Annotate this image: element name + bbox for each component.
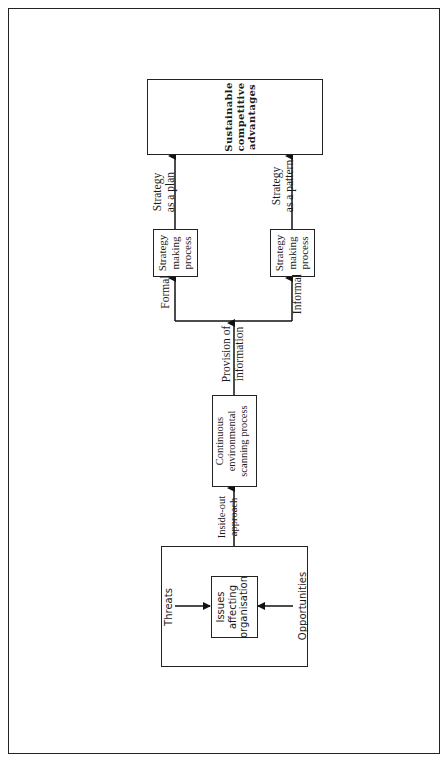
edge-label-strategy-as-a-plan: Strategy as a plan: [151, 157, 179, 227]
label-line: approach: [228, 486, 240, 548]
label-line: competitive: [235, 60, 247, 174]
edge-label-provision-of-information: Provision of information: [220, 313, 248, 395]
edge-label-threats: Threats: [163, 587, 177, 627]
node-issues-affecting-organisation: Issues affecting organisation: [211, 576, 258, 638]
edge-label-formal: Formal: [159, 270, 173, 314]
label-line: Sustainable: [223, 60, 235, 174]
label-line: as a pattern: [283, 145, 296, 227]
label-line: as a plan: [164, 157, 177, 227]
label-line: Strategy: [151, 157, 164, 227]
label-line: process: [181, 228, 194, 278]
node-sustainable-competitive-advantages: Sustainable competitive advantages: [147, 79, 323, 155]
edge-label-opportunities: Opportunities: [297, 566, 311, 646]
label-line: Issues: [215, 575, 227, 639]
label-line: organisation: [238, 575, 250, 639]
label-line: environmental: [226, 395, 238, 487]
label-line: Provision of: [220, 313, 233, 395]
label-line: information: [233, 313, 246, 395]
label-line: Strategy: [270, 145, 283, 227]
label-line: affecting: [227, 575, 239, 639]
label-line: Inside-out: [216, 486, 228, 548]
node-label: Continuous environmental scanning proces…: [214, 395, 252, 487]
node-continuous-environmental-scanning-process: Continuous environmental scanning proces…: [212, 395, 257, 487]
label-line: Continuous: [214, 395, 226, 487]
edge-label-informal: Informal: [291, 269, 305, 319]
edge-label-strategy-as-a-pattern: Strategy as a pattern: [270, 145, 298, 227]
edge-label-inside-out-approach: Inside-out approach: [216, 486, 244, 548]
label-line: advantages: [246, 60, 258, 174]
label-line: scanning process: [238, 395, 250, 487]
node-label: Issues affecting organisation: [215, 575, 253, 639]
node-label: Sustainable competitive advantages: [223, 60, 247, 174]
label-line: Strategy: [273, 228, 286, 278]
